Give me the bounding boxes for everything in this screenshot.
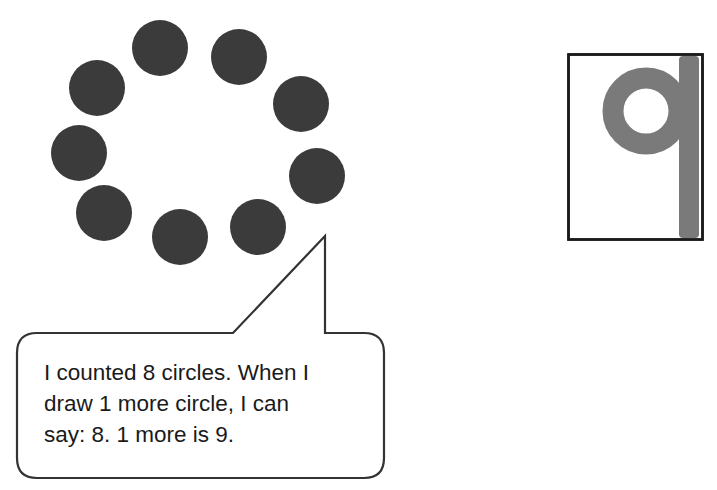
counting-circle bbox=[211, 29, 267, 85]
counting-circle bbox=[51, 125, 107, 181]
numeral-card bbox=[569, 55, 703, 240]
speech-line-1: I counted 8 circles. When I bbox=[44, 357, 384, 388]
counting-circle bbox=[289, 148, 345, 204]
speech-bubble-text: I counted 8 circles. When I draw 1 more … bbox=[44, 357, 384, 450]
counting-circle bbox=[76, 185, 132, 241]
counting-circle bbox=[132, 20, 188, 76]
counting-circle bbox=[69, 60, 125, 116]
counting-circle bbox=[273, 76, 329, 132]
counting-circle bbox=[230, 199, 286, 255]
circle-group bbox=[51, 20, 345, 265]
counting-circle bbox=[152, 209, 208, 265]
speech-line-2: draw 1 more circle, I can bbox=[44, 388, 384, 419]
speech-line-3: say: 8. 1 more is 9. bbox=[44, 419, 384, 450]
